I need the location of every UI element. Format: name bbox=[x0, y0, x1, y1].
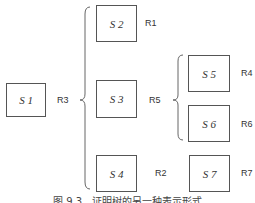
node-s2-label: S 2 bbox=[110, 18, 124, 30]
rule-r1: R1 bbox=[145, 18, 157, 28]
rule-r7: R7 bbox=[241, 168, 253, 178]
node-s7: S 7 bbox=[189, 155, 230, 192]
node-s1: S 1 bbox=[6, 83, 46, 117]
node-s5: S 5 bbox=[188, 55, 230, 92]
rule-r4: R4 bbox=[241, 68, 253, 78]
node-s4: S 4 bbox=[96, 155, 137, 192]
brace-r5 bbox=[173, 55, 183, 140]
node-s7-label: S 7 bbox=[203, 168, 217, 180]
node-s6: S 6 bbox=[188, 105, 230, 142]
node-s1-label: S 1 bbox=[19, 94, 33, 106]
rule-r5: R5 bbox=[149, 95, 161, 105]
rule-r3: R3 bbox=[57, 95, 69, 105]
node-s3: S 3 bbox=[96, 80, 137, 118]
brace-r3 bbox=[80, 7, 90, 189]
node-s6-label: S 6 bbox=[202, 118, 216, 130]
node-s2: S 2 bbox=[96, 5, 137, 42]
figure-caption: 图 9.3 证明树的另一种表示形式 bbox=[0, 193, 255, 203]
node-s5-label: S 5 bbox=[202, 68, 216, 80]
rule-r6: R6 bbox=[241, 119, 253, 129]
rule-r2: R2 bbox=[155, 168, 167, 178]
node-s4-label: S 4 bbox=[110, 168, 124, 180]
node-s3-label: S 3 bbox=[110, 93, 124, 105]
